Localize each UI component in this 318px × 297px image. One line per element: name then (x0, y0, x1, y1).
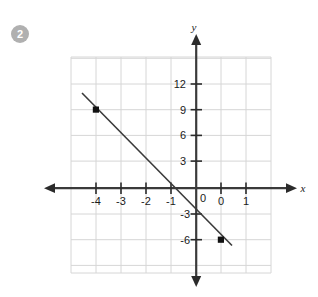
y-tick-label: 12 (174, 78, 186, 90)
data-point (218, 237, 224, 243)
data-point (93, 107, 99, 113)
x-axis-left-arrow (44, 183, 55, 193)
x-axis-label: x (300, 182, 306, 194)
x-tick-label: -3 (116, 195, 126, 207)
x-tick-label: -2 (141, 195, 151, 207)
y-tick-label: 3 (180, 155, 186, 167)
plotted-line (82, 93, 232, 246)
y-axis-bottom-arrow (191, 276, 201, 287)
x-tick-label: -1 (166, 195, 176, 207)
x-tick-label: 1 (243, 195, 249, 207)
y-tick-label: -3 (180, 208, 190, 220)
y-tick-label: 6 (180, 129, 186, 141)
y-tick-label: 9 (180, 104, 186, 116)
x-axis-right-arrow (286, 183, 297, 193)
x-tick-label: -4 (91, 195, 101, 207)
origin-label: 0 (200, 192, 206, 204)
y-tick-label: -6 (180, 234, 190, 246)
y-axis-top-arrow (191, 34, 201, 45)
x-tick-label: 0 (218, 195, 224, 207)
grid-lines (71, 57, 271, 273)
coordinate-plane-svg: 12 9 6 3 -3 -6 -4 -3 -2 -1 0 1 0 x y (0, 0, 318, 297)
worksheet-graph-page: 2 (0, 0, 318, 297)
coordinate-plane-figure: 12 9 6 3 -3 -6 -4 -3 -2 -1 0 1 0 x y (0, 0, 318, 297)
y-axis-label: y (191, 21, 197, 33)
